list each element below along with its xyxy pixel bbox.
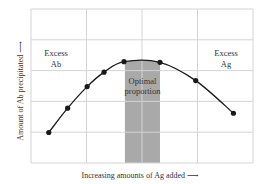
data-point	[157, 60, 162, 65]
precipitin-chart: Excess Ab Excess Ag Optimal proportion I…	[0, 0, 264, 184]
excess-ag-label-line2: Ag	[221, 59, 232, 69]
annotation-excess-ag: Excess Ag	[214, 48, 238, 69]
excess-ab-label-line1: Excess	[44, 48, 68, 58]
excess-ag-label-line1: Excess	[214, 48, 238, 58]
data-point	[46, 130, 51, 135]
data-point	[121, 59, 126, 64]
data-point	[65, 106, 70, 111]
data-point	[101, 70, 106, 75]
data-point	[231, 111, 236, 116]
data-point	[193, 78, 198, 83]
data-point	[85, 84, 90, 89]
annotation-optimal-proportion: Optimal proportion	[125, 76, 162, 96]
y-axis-label: Amount of Ab precipitated ⟶	[16, 41, 25, 141]
optimal-label-line1: Optimal	[129, 76, 157, 86]
x-axis-label: Increasing amounts of Ag added ⟶	[82, 171, 200, 180]
optimal-label-line2: proportion	[125, 86, 162, 96]
annotation-excess-ab: Excess Ab	[44, 48, 68, 69]
excess-ab-label-line2: Ab	[51, 59, 61, 69]
